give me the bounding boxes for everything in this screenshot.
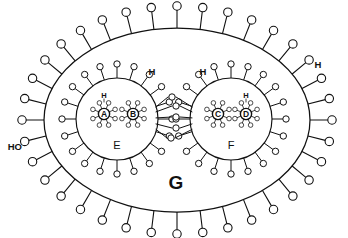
atom-satellite-b xyxy=(126,123,131,128)
atom-satellite-d xyxy=(239,123,244,128)
spoke-line-g xyxy=(29,100,46,104)
spoke-line-g xyxy=(262,190,271,205)
spoke-line-g xyxy=(48,63,62,74)
spoke-line-g xyxy=(292,63,306,74)
atom-satellite-d xyxy=(248,123,253,128)
spoke-line-g xyxy=(64,47,75,61)
spoke-node-g xyxy=(224,224,232,232)
atom-label-b: B xyxy=(130,109,136,119)
atom-satellite-d xyxy=(255,107,260,112)
bridge-node xyxy=(173,114,179,120)
spoke-line-g xyxy=(302,151,318,159)
spoke-node-f xyxy=(245,168,251,174)
bridge-node xyxy=(169,94,175,100)
spoke-node-e xyxy=(158,148,164,154)
atom-label-c: C xyxy=(215,109,221,119)
atom-satellite-a xyxy=(97,123,102,128)
spoke-node-g xyxy=(122,8,130,16)
spoke-node-f xyxy=(280,133,286,139)
spoke-line-g xyxy=(308,136,325,140)
spoke-line-g xyxy=(48,166,62,177)
spoke-node-g xyxy=(21,94,29,102)
region-label-g: G xyxy=(169,172,184,193)
atom-satellite-a xyxy=(91,107,96,112)
spoke-line-g xyxy=(200,12,202,30)
spoke-node-g xyxy=(98,216,106,224)
spoke-node-e xyxy=(146,160,152,166)
atom-satellite-c xyxy=(227,107,232,112)
spoke-node-g xyxy=(122,224,130,232)
spoke-node-g xyxy=(325,94,333,102)
spoke-node-g xyxy=(199,228,207,236)
spoke-line-g xyxy=(104,200,111,217)
spoke-node-g xyxy=(269,205,277,213)
atom-satellite-b xyxy=(126,101,131,106)
atom-satellite-b xyxy=(120,116,125,121)
spoke-node-f xyxy=(211,63,217,69)
atom-satellite-d xyxy=(239,101,244,106)
spoke-node-e xyxy=(97,168,103,174)
atom-satellite-a xyxy=(106,101,111,106)
spoke-line-g xyxy=(262,34,271,49)
spoke-node-g xyxy=(328,116,336,124)
spoke-node-g xyxy=(147,228,155,236)
spoke-node-g xyxy=(247,16,255,24)
spoke-node-g xyxy=(173,2,181,10)
atom-satellite-c xyxy=(220,101,225,106)
spoke-line-g xyxy=(244,24,251,41)
spoke-node-e xyxy=(158,83,164,89)
spoke-node-f xyxy=(272,148,278,154)
spoke-node-g xyxy=(28,74,36,82)
atom-satellite-a xyxy=(113,107,118,112)
spoke-line-g xyxy=(222,206,226,223)
atom-satellite-a xyxy=(106,123,111,128)
hydroxyl-label: HO xyxy=(8,141,22,152)
spoke-node-f xyxy=(228,61,234,67)
spoke-node-e xyxy=(61,99,67,105)
spoke-line-g xyxy=(83,34,92,49)
spoke-node-g xyxy=(224,8,232,16)
spoke-node-g xyxy=(76,205,84,213)
atom-satellite-b xyxy=(142,107,147,112)
spoke-node-e xyxy=(69,83,75,89)
spoke-node-g xyxy=(317,74,325,82)
spoke-line-g xyxy=(152,12,154,30)
spoke-node-g xyxy=(269,26,277,34)
spoke-line-g xyxy=(279,47,290,61)
spoke-node-e xyxy=(131,168,137,174)
spoke-node-g xyxy=(317,158,325,166)
hydrogen-label-on-a: H xyxy=(101,91,106,100)
spoke-node-g xyxy=(247,216,255,224)
spoke-node-f xyxy=(260,71,266,77)
spoke-line-g xyxy=(36,151,52,159)
spoke-node-f xyxy=(183,83,189,89)
figure-root: AHBCDH G E F HOHHH xyxy=(0,0,348,238)
spoke-node-g xyxy=(147,3,155,11)
spoke-line-g xyxy=(36,80,52,88)
spoke-line-g xyxy=(104,24,111,41)
spoke-line-g xyxy=(64,179,75,193)
atom-label-a: A xyxy=(101,109,107,119)
spoke-node-f xyxy=(283,116,289,122)
spoke-node-e xyxy=(97,63,103,69)
spoke-line-g xyxy=(200,211,202,229)
atom-label-d: D xyxy=(243,109,249,119)
atom-satellite-b xyxy=(135,123,140,128)
region-label-f: F xyxy=(228,139,235,151)
spoke-node-f xyxy=(195,160,201,166)
hydrogen-label-on-d: H xyxy=(243,91,248,100)
spoke-node-e xyxy=(61,133,67,139)
spoke-node-g xyxy=(289,192,297,200)
spoke-line-g xyxy=(29,136,46,140)
spoke-line-g xyxy=(292,166,306,177)
spoke-line-g xyxy=(308,100,325,104)
spoke-line-g xyxy=(83,190,92,205)
spoke-node-e xyxy=(114,171,120,177)
atom-satellite-d xyxy=(255,116,260,121)
atom-satellite-c xyxy=(205,107,210,112)
spoke-node-e xyxy=(131,63,137,69)
region-label-e: E xyxy=(113,139,120,151)
spoke-line-g xyxy=(244,200,251,217)
spoke-line-g xyxy=(127,16,131,33)
spoke-node-f xyxy=(211,168,217,174)
